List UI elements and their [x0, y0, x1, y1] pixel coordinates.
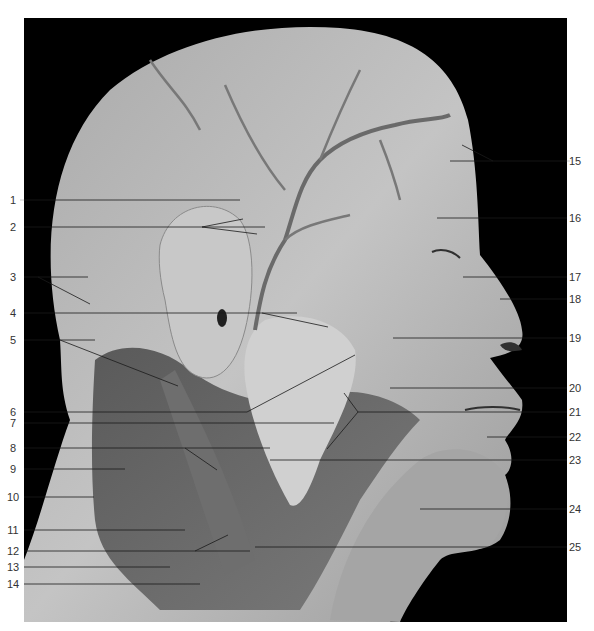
- label-5: 5: [4, 334, 22, 346]
- label-18: 18: [569, 293, 591, 305]
- label-9: 9: [4, 463, 22, 475]
- label-22: 22: [569, 431, 591, 443]
- label-15: 15: [569, 155, 591, 167]
- label-19: 19: [569, 332, 591, 344]
- label-13: 13: [4, 561, 22, 573]
- label-23: 23: [569, 454, 591, 466]
- label-7: 7: [4, 417, 22, 429]
- label-16: 16: [569, 212, 591, 224]
- label-10: 10: [4, 491, 22, 503]
- label-20: 20: [569, 382, 591, 394]
- anatomical-figure: [0, 0, 594, 631]
- label-4: 4: [4, 307, 22, 319]
- label-11: 11: [4, 524, 22, 536]
- label-21: 21: [569, 406, 591, 418]
- label-25: 25: [569, 541, 591, 553]
- label-17: 17: [569, 271, 591, 283]
- label-24: 24: [569, 503, 591, 515]
- label-2: 2: [4, 221, 22, 233]
- label-8: 8: [4, 442, 22, 454]
- label-14: 14: [4, 578, 22, 590]
- label-12: 12: [4, 545, 22, 557]
- label-3: 3: [4, 271, 22, 283]
- label-1: 1: [4, 194, 22, 206]
- ear-canal: [217, 309, 227, 327]
